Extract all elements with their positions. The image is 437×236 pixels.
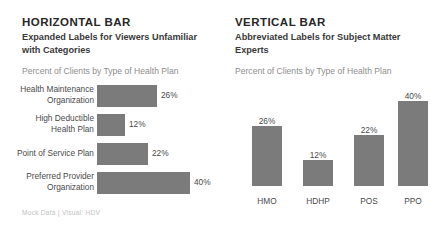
bar-row: Preferred Provider Organization 40% <box>0 171 222 195</box>
bar-category-label: Point of Service Plan <box>4 148 94 159</box>
bar-fill[interactable] <box>354 135 384 186</box>
bar-fill[interactable] <box>398 101 428 186</box>
horizontal-bar-panel: HORIZONTAL BAR Expanded Labels for Viewe… <box>0 0 222 236</box>
bar-value-label: 22% <box>152 148 169 158</box>
bar-fill[interactable] <box>97 85 157 107</box>
bar-row: Point of Service Plan 22% <box>0 142 222 166</box>
bar-track <box>97 172 190 194</box>
bar-column: 12% HDHP <box>295 96 341 208</box>
bar-track <box>97 143 148 165</box>
bar-track <box>97 85 157 107</box>
bar-value-label: 26% <box>244 116 290 126</box>
bar-value-label: 22% <box>346 125 392 135</box>
bar-category-label-line2: Organization <box>4 182 94 193</box>
bar-category-label: Health Maintenance Organization <box>4 84 94 107</box>
bar-value-label: 40% <box>390 91 436 101</box>
bar-category-label: PPO <box>390 196 436 206</box>
bar-fill[interactable] <box>252 126 282 186</box>
bar-category-label-line1: Preferred Provider <box>4 171 94 182</box>
footer-source-note: Mock Data | Visual: HDV <box>22 209 100 216</box>
bar-category-label-line1: Health Maintenance <box>4 84 94 95</box>
bar-value-label: 12% <box>129 119 146 129</box>
bar-fill[interactable] <box>303 160 333 186</box>
bar-value-label: 12% <box>295 150 341 160</box>
bar-category-label-line2: Health Plan <box>4 124 94 135</box>
bar-fill[interactable] <box>97 143 148 165</box>
horizontal-chart-axis-title: Percent of Clients by Type of Health Pla… <box>22 66 179 76</box>
horizontal-chart-subtitle: Expanded Labels for Viewers Unfamiliar w… <box>22 31 202 56</box>
bar-category-label: POS <box>346 196 392 206</box>
bar-category-label: High Deductible Health Plan <box>4 113 94 136</box>
horizontal-chart-title: HORIZONTAL BAR <box>22 16 131 28</box>
vertical-chart-axis-title: Percent of Clients by Type of Health Pla… <box>235 66 392 76</box>
bar-category-label: Preferred Provider Organization <box>4 171 94 194</box>
bar-value-label: 40% <box>194 177 211 187</box>
bar-fill[interactable] <box>97 172 190 194</box>
bar-row: Health Maintenance Organization 26% <box>0 84 222 108</box>
bar-fill[interactable] <box>97 114 125 136</box>
bar-track <box>97 114 125 136</box>
vertical-chart-title: VERTICAL BAR <box>235 16 326 28</box>
bar-category-label: HDHP <box>295 196 341 206</box>
bar-column: 26% HMO <box>244 96 290 208</box>
bar-category-label-line2: Organization <box>4 95 94 106</box>
bar-row: High Deductible Health Plan 12% <box>0 113 222 137</box>
bar-column: 40% PPO <box>390 96 436 208</box>
vertical-chart-subtitle: Abbreviated Labels for Subject Matter Ex… <box>235 31 413 56</box>
horizontal-bar-plot-area: Health Maintenance Organization 26% High… <box>0 84 222 196</box>
bar-category-label: HMO <box>244 196 290 206</box>
bar-value-label: 26% <box>161 90 178 100</box>
bar-column: 22% POS <box>346 96 392 208</box>
bar-category-label-line1: Point of Service Plan <box>4 148 94 159</box>
bar-category-label-line1: High Deductible <box>4 113 94 124</box>
vertical-bar-plot-area: 26% HMO 12% HDHP 22% POS 40% PPO <box>222 96 437 208</box>
